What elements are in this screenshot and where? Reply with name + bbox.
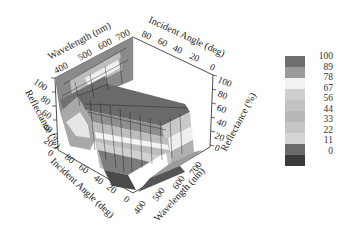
colorbar-labels: 100 89 78 67 56 44 33 22 11 0 bbox=[315, 51, 333, 156]
colorbar-band bbox=[285, 144, 305, 155]
colorbar-band bbox=[285, 89, 305, 100]
colorbar-band bbox=[285, 100, 305, 111]
svg-text:80: 80 bbox=[216, 89, 229, 102]
colorbar-band bbox=[285, 111, 305, 122]
colorbar-label: 89 bbox=[315, 62, 333, 73]
svg-text:0: 0 bbox=[208, 62, 217, 73]
svg-text:40: 40 bbox=[92, 173, 106, 187]
svg-text:0: 0 bbox=[122, 194, 132, 205]
colorbar-label: 11 bbox=[315, 135, 333, 146]
svg-text:60: 60 bbox=[215, 103, 228, 116]
colorbar-label: 78 bbox=[315, 72, 333, 83]
colorbar bbox=[285, 56, 305, 166]
colorbar-band bbox=[285, 78, 305, 89]
svg-text:40: 40 bbox=[215, 117, 228, 130]
colorbar-label: 33 bbox=[315, 114, 333, 125]
colorbar-band bbox=[285, 155, 305, 166]
svg-text:100: 100 bbox=[216, 75, 233, 90]
svg-text:400: 400 bbox=[131, 199, 148, 217]
colorbar-band bbox=[285, 56, 305, 67]
colorbar-band bbox=[285, 122, 305, 133]
svg-text:60: 60 bbox=[77, 162, 91, 176]
colorbar-label: 100 bbox=[315, 51, 333, 62]
colorbar-label: 0 bbox=[315, 146, 333, 157]
svg-text:40: 40 bbox=[171, 43, 184, 56]
colorbar-label: 67 bbox=[315, 83, 333, 94]
colorbar-band bbox=[285, 67, 305, 78]
colorbar-band bbox=[285, 133, 305, 144]
colorbar-label: 22 bbox=[315, 125, 333, 136]
angle-axis-title-top: Incident Angle (deg) bbox=[147, 14, 227, 60]
colorbar-label: 44 bbox=[315, 104, 333, 115]
colorbar-label: 56 bbox=[315, 93, 333, 104]
svg-text:20: 20 bbox=[188, 51, 201, 64]
svg-text:60: 60 bbox=[156, 36, 169, 49]
svg-text:80: 80 bbox=[140, 29, 153, 42]
